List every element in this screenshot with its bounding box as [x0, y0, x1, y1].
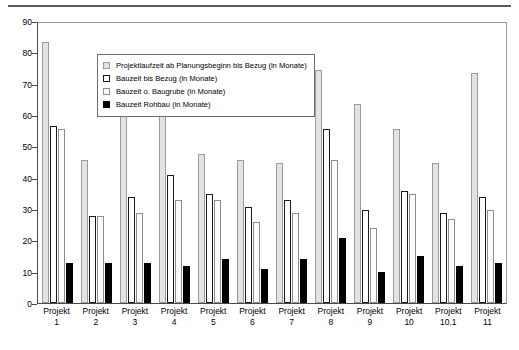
bar-series-2[interactable]: [214, 200, 221, 303]
bar-series-3[interactable]: [183, 266, 190, 303]
plot-area: Projektlaufzeit ab Planungsbeginn bis Be…: [37, 22, 507, 304]
bar-group: [389, 23, 428, 303]
bar-series-1[interactable]: [479, 197, 486, 303]
y-tick-label: 90: [2, 18, 32, 27]
x-tick-label-line: Projekt: [233, 306, 272, 317]
bar-series-3[interactable]: [66, 263, 73, 303]
x-tick-label-line: Projekt: [155, 306, 194, 317]
bar-series-0[interactable]: [354, 104, 361, 303]
x-tick-label: Projekt6: [233, 306, 272, 328]
bar-series-3[interactable]: [300, 259, 307, 303]
bar-series-2[interactable]: [292, 213, 299, 303]
bar-series-3[interactable]: [105, 263, 112, 303]
bar-series-1[interactable]: [284, 200, 291, 303]
y-tick-label: 70: [2, 81, 32, 90]
x-tick-label-line: Projekt: [429, 306, 468, 317]
bar-series-2[interactable]: [448, 219, 455, 303]
x-tick-label-line: 2: [76, 317, 115, 328]
legend-item[interactable]: Bauzeit Rohbau (in Monate): [103, 98, 308, 111]
x-tick-label-line: 8: [311, 317, 350, 328]
bar-series-3[interactable]: [378, 272, 385, 303]
bar-series-3[interactable]: [456, 266, 463, 303]
y-tick-label: 80: [2, 49, 32, 58]
x-tick-label: Projekt11: [468, 306, 507, 328]
bar-group: [350, 23, 389, 303]
legend-label: Bauzeit o. Baugrube (in Monate): [116, 87, 225, 96]
x-axis: Projekt1Projekt2Projekt3Projekt4Projekt5…: [37, 306, 507, 328]
bar-series-1[interactable]: [362, 210, 369, 303]
y-tick-mark: [32, 304, 37, 305]
bar-series-2[interactable]: [331, 160, 338, 303]
bar-series-2[interactable]: [175, 200, 182, 303]
bar-series-3[interactable]: [144, 263, 151, 303]
bar-series-0[interactable]: [315, 70, 322, 303]
bar-series-3[interactable]: [417, 256, 424, 303]
legend-item[interactable]: Bauzeit bis Bezug (in Monate): [103, 72, 308, 85]
bar-series-2[interactable]: [409, 194, 416, 303]
x-tick-label-line: 5: [194, 317, 233, 328]
bar-series-1[interactable]: [167, 175, 174, 303]
x-tick-label-line: 1: [37, 317, 76, 328]
bar-series-0[interactable]: [159, 110, 166, 303]
bar-series-1[interactable]: [206, 194, 213, 303]
bar-series-0[interactable]: [393, 129, 400, 303]
bar-series-2[interactable]: [136, 213, 143, 303]
bar-series-1[interactable]: [401, 191, 408, 303]
legend-swatch-icon: [103, 75, 110, 82]
bar-series-1[interactable]: [323, 129, 330, 303]
x-tick-label-line: Projekt: [272, 306, 311, 317]
bar-series-2[interactable]: [58, 129, 65, 303]
top-divider: [8, 5, 511, 7]
legend-swatch-icon: [103, 101, 110, 108]
x-tick-label: Projekt8: [311, 306, 350, 328]
bar-series-0[interactable]: [81, 160, 88, 303]
y-tick-label: 10: [2, 269, 32, 278]
x-tick-label: Projekt1: [37, 306, 76, 328]
x-tick-label: Projekt5: [194, 306, 233, 328]
bar-series-1[interactable]: [89, 216, 96, 303]
bar-series-0[interactable]: [120, 113, 127, 303]
bar-group: [428, 23, 467, 303]
x-tick-label-line: Projekt: [37, 306, 76, 317]
bar-series-2[interactable]: [97, 216, 104, 303]
bar-series-1[interactable]: [245, 207, 252, 303]
x-tick-label: Projekt2: [76, 306, 115, 328]
bar-series-3[interactable]: [222, 259, 229, 303]
legend-item[interactable]: Bauzeit o. Baugrube (in Monate): [103, 85, 308, 98]
bar-series-0[interactable]: [42, 42, 49, 303]
bar-series-3[interactable]: [339, 238, 346, 303]
bar-series-0[interactable]: [471, 73, 478, 303]
bar-series-0[interactable]: [276, 163, 283, 303]
bar-series-3[interactable]: [495, 263, 502, 303]
legend-label: Bauzeit bis Bezug (in Monate): [116, 74, 217, 83]
bar-series-1[interactable]: [128, 197, 135, 303]
bar-series-3[interactable]: [261, 269, 268, 303]
x-tick-label-line: Projekt: [194, 306, 233, 317]
y-tick-label: 20: [2, 237, 32, 246]
y-tick-label: 40: [2, 175, 32, 184]
bar-series-1[interactable]: [50, 126, 57, 303]
x-tick-label-line: 4: [155, 317, 194, 328]
bar-series-2[interactable]: [370, 228, 377, 303]
legend-label: Projektlaufzeit ab Planungsbeginn bis Be…: [116, 61, 307, 70]
bar-series-2[interactable]: [253, 222, 260, 303]
y-tick-label: 50: [2, 143, 32, 152]
x-tick-label: Projekt9: [350, 306, 389, 328]
x-tick-label-line: Projekt: [350, 306, 389, 317]
x-tick-label-line: 10: [390, 317, 429, 328]
y-tick-label: 30: [2, 206, 32, 215]
legend-item[interactable]: Projektlaufzeit ab Planungsbeginn bis Be…: [103, 59, 308, 72]
bar-series-0[interactable]: [198, 154, 205, 303]
x-tick-label-line: Projekt: [115, 306, 154, 317]
x-tick-label-line: 11: [468, 317, 507, 328]
x-tick-label: Projekt7: [272, 306, 311, 328]
x-tick-label-line: 9: [350, 317, 389, 328]
x-tick-label-line: 10.1: [429, 317, 468, 328]
bar-series-1[interactable]: [440, 213, 447, 303]
chart-page: 0102030405060708090 Projektlaufzeit ab P…: [0, 0, 519, 350]
x-tick-label: Projekt10.1: [429, 306, 468, 328]
bar-series-2[interactable]: [487, 210, 494, 303]
bar-series-0[interactable]: [432, 163, 439, 303]
bar-series-0[interactable]: [237, 160, 244, 303]
bar-group: [38, 23, 77, 303]
